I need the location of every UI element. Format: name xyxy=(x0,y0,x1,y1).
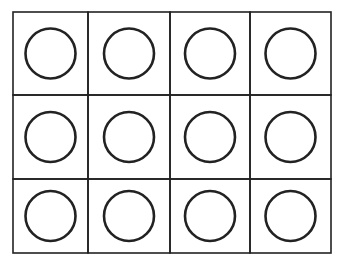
circle-icon xyxy=(26,191,76,241)
circle-icon xyxy=(26,112,76,162)
circle-icon xyxy=(266,191,316,241)
circle-icon xyxy=(185,191,235,241)
circle-icon xyxy=(104,29,154,79)
circle-icon xyxy=(26,29,76,79)
grid-cell xyxy=(170,95,250,179)
circle-icon xyxy=(266,29,316,79)
circle-icon xyxy=(266,112,316,162)
grid-cell xyxy=(88,95,170,179)
circle-icon xyxy=(104,112,154,162)
circle-icon xyxy=(185,112,235,162)
grid-cell xyxy=(170,12,250,95)
grid-cell xyxy=(88,12,170,95)
circle-icon xyxy=(185,29,235,79)
grid-cell xyxy=(250,95,331,179)
circle-icon xyxy=(104,191,154,241)
circle-grid-diagram xyxy=(0,0,339,269)
grid-cell xyxy=(250,12,331,95)
